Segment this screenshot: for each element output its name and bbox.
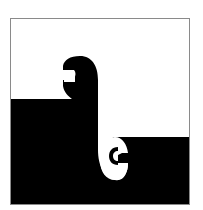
black-scroll-notch bbox=[64, 72, 75, 82]
abstract-scroll-figure bbox=[0, 0, 203, 210]
